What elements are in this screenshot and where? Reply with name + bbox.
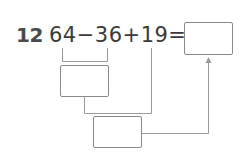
arrow-up-icon <box>206 57 212 63</box>
bracket-64-36 <box>63 48 108 62</box>
connector-step1-to-19 <box>85 48 152 114</box>
connector-lines <box>0 0 244 158</box>
